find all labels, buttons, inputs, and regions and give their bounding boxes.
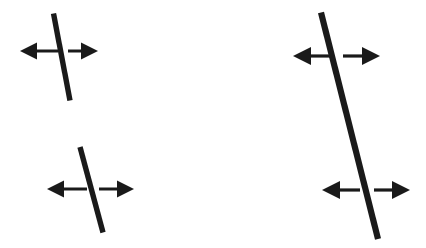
figure-background xyxy=(0,0,426,248)
figure-canvas xyxy=(0,0,426,248)
figure-root xyxy=(0,0,426,248)
